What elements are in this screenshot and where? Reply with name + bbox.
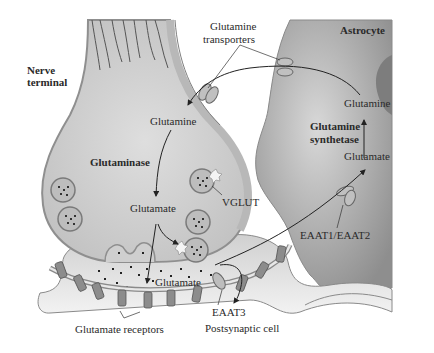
- label-neuron-glutamate: Glutamate: [130, 202, 176, 214]
- label-glutamine-transporters-2: transporters: [203, 33, 255, 45]
- label-glutamine-transporters-1: Glutamine: [210, 20, 256, 32]
- label-nerve-terminal-1: Nerve: [27, 64, 55, 76]
- label-astrocyte: Astrocyte: [340, 24, 385, 36]
- label-neuron-glutamine: Glutamine: [150, 115, 196, 127]
- label-glutamine-synthetase-1: Glutamine: [310, 120, 360, 132]
- label-glutaminase: Glutaminase: [90, 156, 150, 168]
- label-vglut: VGLUT: [222, 196, 259, 208]
- diagram-canvas: [0, 0, 434, 353]
- label-eaat3: EAAT3: [212, 306, 246, 318]
- label-astrocyte-glutamate: Glutamate: [344, 150, 390, 162]
- label-postsynaptic-cell: Postsynaptic cell: [205, 322, 279, 334]
- label-cleft-glutamate: Glutamate: [155, 276, 201, 288]
- label-glutamate-receptors: Glutamate receptors: [75, 323, 164, 335]
- label-astrocyte-glutamine: Glutamine: [344, 97, 390, 109]
- label-nerve-terminal-2: terminal: [27, 76, 67, 88]
- label-eaat1-eaat2: EAAT1/EAAT2: [300, 229, 370, 241]
- label-glutamine-synthetase-2: synthetase: [310, 133, 359, 145]
